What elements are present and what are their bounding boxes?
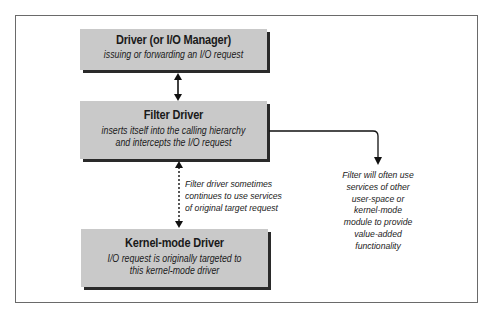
bidirectional-arrow-icon [174,73,182,101]
dotted-connector-note: Filter driver sometimes continues to use… [185,178,282,213]
dotted-bidirectional-arrow-icon [175,161,183,228]
side-connector-note: Filter will often use services of other … [330,169,425,252]
connector-layer [0,0,493,315]
elbow-arrow-icon [269,131,382,165]
